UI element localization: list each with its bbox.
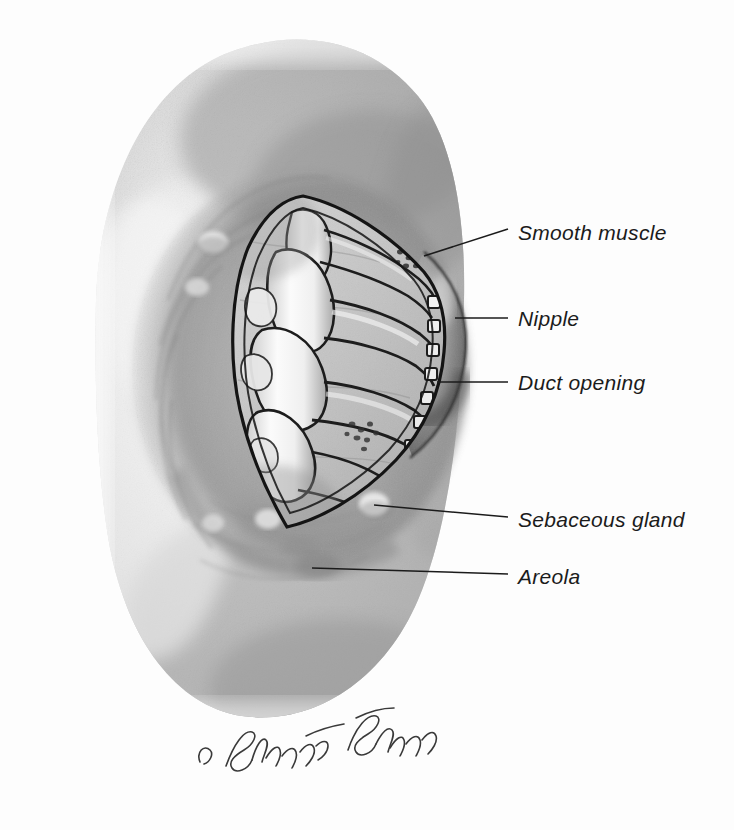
label-sebaceous-gland: Sebaceous gland xyxy=(518,509,685,530)
label-areola: Areola xyxy=(518,566,581,587)
label-nipple: Nipple xyxy=(518,308,579,329)
label-smooth-muscle: Smooth muscle xyxy=(518,222,667,243)
illustration-page: Nipple and areola cross-section xyxy=(0,0,734,830)
artist-signature xyxy=(199,708,436,771)
anatomical-illustration xyxy=(0,0,734,830)
label-duct-opening: Duct opening xyxy=(518,372,645,393)
